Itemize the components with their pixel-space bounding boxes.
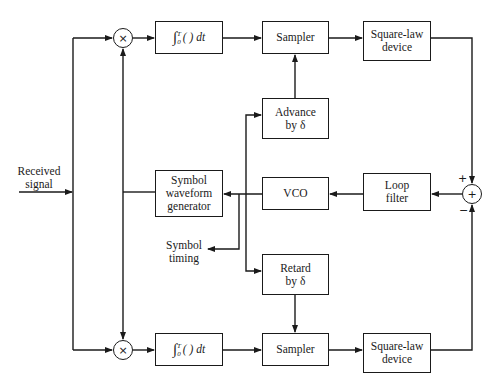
lower-limit: 0 xyxy=(177,350,181,358)
square-law-line2: device xyxy=(382,353,412,366)
vco-block: VCO xyxy=(262,177,329,210)
generator-line1: Symbol xyxy=(171,174,207,187)
integrand: ( ) dt xyxy=(183,343,205,356)
symbol-waveform-generator: Symbol waveform generator xyxy=(155,170,223,217)
summer-plus-sign: + xyxy=(458,172,467,185)
sampler-label: Sampler xyxy=(276,343,314,356)
lower-limit: 0 xyxy=(177,38,181,46)
summing-junction: + xyxy=(462,184,482,204)
square-law-line1: Square-law xyxy=(371,28,423,41)
generator-line3: generator xyxy=(167,200,210,213)
multiply-icon: × xyxy=(118,344,127,357)
symbol-timing-line1: Symbol xyxy=(162,239,206,252)
retard-line2: by δ xyxy=(286,275,306,288)
received-signal-line2: signal xyxy=(14,178,64,191)
upper-square-law-device: Square-law device xyxy=(363,21,431,61)
advance-block: Advance by δ xyxy=(262,98,329,139)
upper-sampler: Sampler xyxy=(262,21,329,54)
symbol-timing-line2: timing xyxy=(162,252,206,265)
lower-integrator: ∫T0( ) dt xyxy=(155,333,223,366)
retard-block: Retard by δ xyxy=(262,254,329,295)
lower-sampler: Sampler xyxy=(262,333,329,366)
received-signal-line1: Received xyxy=(14,165,64,178)
vco-label: VCO xyxy=(283,187,307,200)
symbol-timing-label: Symbol timing xyxy=(162,239,206,265)
upper-multiplier: × xyxy=(113,28,133,48)
upper-limit: T xyxy=(177,30,181,38)
lower-square-law-device: Square-law device xyxy=(363,333,431,373)
summer-minus-sign: − xyxy=(459,204,468,217)
loop-filter-line2: filter xyxy=(386,192,408,205)
square-law-line2: device xyxy=(382,41,412,54)
upper-integrator: ∫T0( ) dt xyxy=(155,21,223,54)
advance-line1: Advance xyxy=(275,106,316,119)
lower-multiplier: × xyxy=(113,340,133,360)
advance-line2: by δ xyxy=(286,119,306,132)
sampler-label: Sampler xyxy=(276,31,314,44)
received-signal-label: Received signal xyxy=(14,165,64,191)
integrand: ( ) dt xyxy=(183,31,205,44)
upper-limit: T xyxy=(177,342,181,350)
loop-filter-block: Loop filter xyxy=(363,173,431,211)
multiply-icon: × xyxy=(118,32,127,45)
loop-filter-line1: Loop xyxy=(385,179,409,192)
square-law-line1: Square-law xyxy=(371,340,423,353)
plus-icon: + xyxy=(467,188,476,201)
retard-line1: Retard xyxy=(280,262,311,275)
generator-line2: waveform xyxy=(166,187,213,200)
